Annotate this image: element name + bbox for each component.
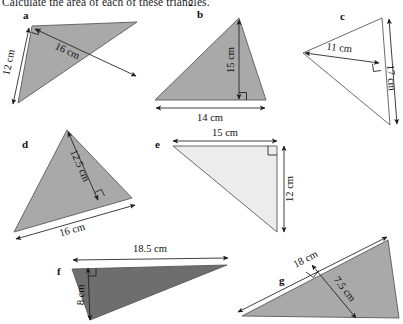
figure-f-dim-18-5-label: 18.5 cm — [133, 243, 167, 254]
figure-b-dim-15-label: 15 cm — [225, 47, 236, 73]
figure-e-dim-15-label: 15 cm — [212, 127, 238, 138]
figure-f-label: f — [57, 265, 61, 277]
figure-c: 11 cm 17 cm c — [303, 10, 398, 125]
triangle-g-shape — [242, 240, 399, 318]
figure-e-label: e — [155, 138, 160, 150]
figure-e: 15 cm 12 cm e — [155, 127, 295, 232]
triangle-e-shape — [173, 146, 277, 232]
triangle-b-shape — [155, 18, 266, 100]
figure-b: 15 cm 14 cm b — [155, 8, 266, 123]
worksheet-page: Calculate the area of each of these tria… — [0, 0, 403, 324]
figure-e-dim-12-label: 12 cm — [284, 176, 295, 202]
figure-f-dim-8-label: 8 cm — [75, 284, 87, 305]
figure-d-label: d — [22, 138, 28, 150]
triangle-f-shape — [72, 265, 227, 320]
figure-c-label: c — [340, 10, 345, 22]
figure-g: 18 cm 7.5 cm g — [238, 237, 399, 318]
figure-g-label: g — [279, 274, 285, 286]
figure-f-dim-18-5-line — [73, 258, 228, 260]
figure-d-dim-16-label: 16 cm — [58, 221, 86, 239]
figure-b-label: b — [197, 8, 203, 20]
figure-b-dim-14-label: 14 cm — [197, 112, 223, 123]
figure-a-dim-12-label: 12 cm — [0, 48, 16, 76]
figure-d: 12.5 cm 16 cm d — [14, 130, 135, 239]
triangle-d-shape — [14, 130, 132, 232]
figure-f: 18.5 cm 8 cm f — [57, 243, 228, 320]
figures-canvas: 16 cm 12 cm a 15 cm 14 cm b 11 cm 17 cm … — [0, 0, 403, 324]
triangle-c-shape — [303, 18, 390, 125]
figure-g-dim-18-label: 18 cm — [291, 248, 319, 270]
figure-a-label: a — [23, 9, 29, 21]
figure-c-dim-17-label: 17 cm — [385, 64, 398, 91]
figure-a: 16 cm 12 cm a — [0, 9, 137, 104]
